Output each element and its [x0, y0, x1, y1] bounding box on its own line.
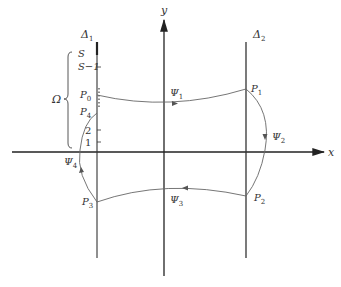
x-axis: x — [12, 146, 335, 159]
delta1-label: Δ1 — [80, 28, 93, 43]
psi2-path: Ψ2 — [246, 89, 285, 196]
point-P4-label: P4 — [79, 106, 92, 120]
tick-S: S — [78, 48, 85, 59]
omega-brace: Ω — [51, 52, 72, 148]
y-axis: y — [160, 4, 168, 276]
psi3-path: Ψ3 — [97, 186, 246, 209]
point-P2-label: P2 — [253, 192, 265, 206]
point-P0-label: P0 — [79, 89, 91, 103]
x-axis-label: x — [328, 146, 335, 159]
y-axis-label: y — [160, 4, 168, 17]
psi1-path: Ψ1 — [97, 87, 246, 106]
diagram-canvas: x y Δ1 S S−1 2 1 Ω Δ2 Ψ1 Ψ2 — [0, 0, 341, 287]
delta2-line: Δ2 — [246, 28, 265, 258]
tick-1: 1 — [85, 137, 91, 148]
omega-label: Ω — [51, 93, 61, 106]
psi4-path: Ψ4 — [64, 113, 97, 202]
psi1-label: Ψ1 — [170, 87, 183, 101]
psi2-label: Ψ2 — [272, 131, 285, 145]
point-P3-label: P3 — [81, 196, 93, 210]
psi4-label: Ψ4 — [64, 156, 78, 170]
tick-S-minus-1: S−1 — [78, 61, 100, 72]
psi3-label: Ψ3 — [170, 194, 183, 208]
delta2-label: Δ2 — [252, 28, 265, 43]
